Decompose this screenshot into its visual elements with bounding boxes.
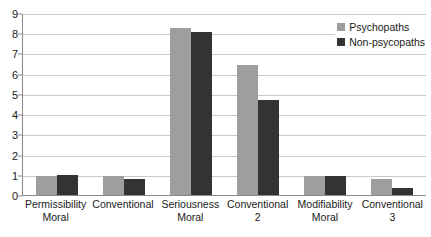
bar-group (157, 14, 224, 196)
x-axis-category-line2: Moral (158, 211, 223, 224)
bar (191, 32, 212, 196)
x-axis-category-line2: 2 (225, 211, 290, 224)
x-axis-category-label: ModifiabilityMoral (291, 198, 358, 224)
legend-swatch-icon (337, 23, 345, 31)
x-axis-category-line2: Moral (292, 211, 357, 224)
x-axis-category-label: Conventional3 (359, 198, 426, 224)
bar (170, 28, 191, 196)
x-axis-category-line1: Conventional (92, 198, 153, 210)
x-axis-category-label: Conventional2 (224, 198, 291, 224)
x-axis-category-line2: Moral (23, 211, 88, 224)
bar (124, 179, 145, 196)
x-axis-category-label: PermissibilityMoral (22, 198, 89, 224)
legend-item: Psychopaths (337, 21, 425, 34)
x-axis-category-label: SeriousnessMoral (157, 198, 224, 224)
legend-label: Non-psycopaths (349, 36, 425, 49)
x-axis-category-label: Conventional (89, 198, 156, 224)
bar (325, 176, 346, 196)
bar (258, 100, 279, 196)
legend-item: Non-psycopaths (337, 36, 425, 49)
x-axis-category-line2: 3 (360, 211, 425, 224)
bar (36, 176, 57, 196)
x-axis-category-line1: Modifiability (298, 198, 353, 210)
chart-legend: PsychopathsNon-psycopaths (335, 20, 427, 49)
x-axis-labels: PermissibilityMoralConventionalSeriousne… (22, 198, 426, 224)
bar-chart: 0123456789 PermissibilityMoralConvention… (0, 0, 431, 237)
bar-group (225, 14, 292, 196)
y-axis: 0123456789 (0, 14, 22, 196)
bar (237, 65, 258, 196)
legend-swatch-icon (337, 38, 345, 46)
x-axis-category-line1: Seriousness (161, 198, 219, 210)
bar (103, 176, 124, 196)
legend-label: Psychopaths (349, 21, 409, 34)
bar-group (23, 14, 90, 196)
bar-group (90, 14, 157, 196)
x-axis-category-line1: Conventional (362, 198, 423, 210)
bar (371, 179, 392, 196)
x-axis-baseline (23, 195, 426, 196)
bar (304, 176, 325, 196)
x-axis-category-line1: Conventional (227, 198, 288, 210)
bar (57, 175, 78, 196)
x-axis-category-line1: Permissibility (25, 198, 86, 210)
